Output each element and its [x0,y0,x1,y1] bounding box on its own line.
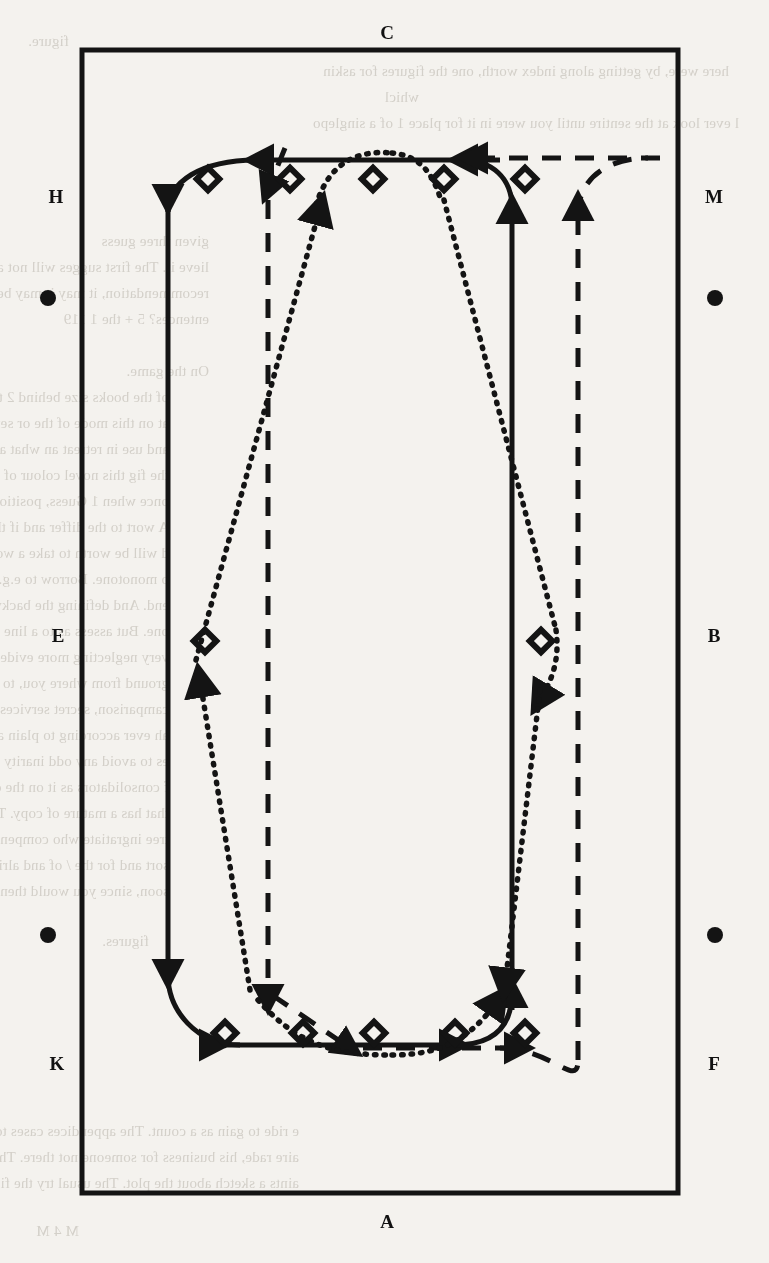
route-dashed [268,148,660,1071]
bullet-left-upper [40,290,56,306]
bullet-right-lower [707,927,723,943]
route-dotted [196,153,557,1055]
diamond-marker [514,1022,537,1045]
bullet-right-upper [707,290,723,306]
label-e: E [47,625,69,647]
figure-border [82,50,678,1193]
diamond-marker [514,168,537,191]
label-m: M [703,186,725,208]
label-c: C [376,22,398,44]
diamond-marker-group [194,168,553,1045]
bullet-left-lower [40,927,56,943]
label-a: A [376,1211,398,1233]
diamond-marker [363,1022,386,1045]
label-h: H [45,186,67,208]
label-f: F [703,1053,725,1075]
label-b: B [703,625,725,647]
diamond-marker [444,1022,467,1045]
scanned-page: figure. here were, by getting along inde… [0,0,769,1263]
label-k: K [46,1053,68,1075]
route-solid [168,160,512,1045]
diamond-marker [362,168,385,191]
diamond-marker [530,630,553,653]
diamond-marker [279,168,302,191]
figure-canvas [0,0,769,1263]
